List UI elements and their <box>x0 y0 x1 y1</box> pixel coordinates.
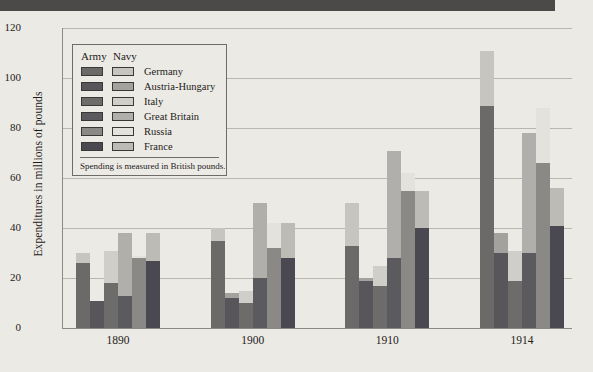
x-axis-line <box>62 328 572 329</box>
bar-segment-army <box>146 261 160 329</box>
legend-swatch-army <box>81 67 103 76</box>
legend-label: Great Britain <box>144 111 199 122</box>
bar-segment-army <box>225 298 239 328</box>
bar-segment-army <box>387 258 401 328</box>
legend-swatch-navy <box>112 112 134 121</box>
bar-france-1914 <box>550 188 564 328</box>
bar-germany-1890 <box>76 253 90 328</box>
y-tick-label: 40 <box>0 221 21 233</box>
y-tick-label: 20 <box>0 271 21 283</box>
bar-segment-navy <box>104 251 118 284</box>
bar-segment-army <box>267 248 281 328</box>
bar-austria-hungary-1890 <box>90 301 104 329</box>
bar-france-1910 <box>415 191 429 329</box>
bar-france-1890 <box>146 233 160 328</box>
header-band <box>0 0 555 11</box>
bar-segment-navy <box>211 228 225 241</box>
bar-segment-army <box>550 226 564 329</box>
bar-russia-1914 <box>536 108 550 328</box>
bar-segment-navy <box>536 108 550 163</box>
bar-germany-1910 <box>345 203 359 328</box>
bar-segment-navy <box>415 191 429 229</box>
legend-swatch-navy <box>112 142 134 151</box>
bar-italy-1910 <box>373 266 387 329</box>
bar-segment-navy <box>387 151 401 259</box>
bar-segment-navy <box>550 188 564 226</box>
x-tick-label-1914: 1914 <box>482 334 562 346</box>
legend-swatch-navy <box>112 97 134 106</box>
bar-segment-army <box>281 258 295 328</box>
bar-segment-navy <box>239 291 253 304</box>
bar-segment-navy <box>253 203 267 278</box>
legend-swatch-army <box>81 127 103 136</box>
y-tick-label: 120 <box>0 21 21 33</box>
bar-segment-navy <box>281 223 295 258</box>
legend-header: Army Navy <box>80 50 219 62</box>
bar-germany-1914 <box>480 51 494 329</box>
bar-italy-1900 <box>239 291 253 329</box>
bar-segment-army <box>494 253 508 328</box>
bar-italy-1890 <box>104 251 118 329</box>
bar-segment-army <box>359 281 373 329</box>
legend-item-russia[interactable]: Russia <box>80 124 219 138</box>
legend-rows: GermanyAustria-HungaryItalyGreat Britain… <box>80 64 219 153</box>
legend: Army Navy GermanyAustria-HungaryItalyGre… <box>72 44 227 176</box>
bar-segment-navy <box>401 173 415 191</box>
bar-segment-army <box>508 281 522 329</box>
legend-swatch-army <box>81 97 103 106</box>
bar-austria-hungary-1900 <box>225 293 239 328</box>
bar-segment-navy <box>146 233 160 261</box>
bar-segment-navy <box>494 233 508 253</box>
bar-segment-army <box>132 258 146 328</box>
legend-note: Spending is measured in British pounds. <box>80 157 219 171</box>
bar-segment-army <box>522 253 536 328</box>
legend-swatch-army <box>81 112 103 121</box>
bar-segment-navy <box>480 51 494 106</box>
bar-segment-army <box>239 303 253 328</box>
legend-item-germany[interactable]: Germany <box>80 64 219 78</box>
bar-segment-navy <box>508 251 522 281</box>
x-tick-label-1890: 1890 <box>78 334 158 346</box>
legend-header-army: Army <box>81 50 113 62</box>
bar-segment-army <box>480 106 494 329</box>
bar-segment-army <box>536 163 550 328</box>
bar-segment-army <box>211 241 225 329</box>
bar-segment-navy <box>118 233 132 296</box>
y-tick-label: 0 <box>0 321 21 333</box>
bar-great-britain-1890 <box>118 233 132 328</box>
x-tick-label-1900: 1900 <box>213 334 293 346</box>
legend-item-france[interactable]: France <box>80 139 219 153</box>
bar-segment-army <box>118 296 132 329</box>
y-tick-label: 100 <box>0 71 21 83</box>
legend-item-austria-hungary[interactable]: Austria-Hungary <box>80 79 219 93</box>
y-axis-title: Expenditures in millions of pounds <box>32 59 44 289</box>
bar-segment-army <box>76 263 90 328</box>
bar-segment-navy <box>76 253 90 263</box>
bar-italy-1914 <box>508 251 522 329</box>
y-tick-label: 80 <box>0 121 21 133</box>
legend-label: France <box>144 141 173 152</box>
bar-russia-1910 <box>401 173 415 328</box>
bar-segment-army <box>373 286 387 329</box>
bar-great-britain-1910 <box>387 151 401 329</box>
bar-russia-1890 <box>132 256 146 329</box>
legend-header-navy: Navy <box>113 50 153 62</box>
legend-item-great-britain[interactable]: Great Britain <box>80 109 219 123</box>
legend-swatch-army <box>81 82 103 91</box>
bar-segment-army <box>90 301 104 329</box>
bar-austria-hungary-1910 <box>359 278 373 328</box>
legend-label: Russia <box>144 126 172 137</box>
legend-item-italy[interactable]: Italy <box>80 94 219 108</box>
bar-segment-army <box>104 283 118 328</box>
legend-label: Austria-Hungary <box>144 81 215 92</box>
bar-great-britain-1914 <box>522 133 536 328</box>
legend-label: Italy <box>144 96 163 107</box>
bar-segment-navy <box>522 133 536 253</box>
bar-segment-navy <box>345 203 359 246</box>
bar-segment-army <box>345 246 359 329</box>
legend-swatch-navy <box>112 82 134 91</box>
bar-segment-army <box>401 191 415 329</box>
legend-label: Germany <box>144 66 183 77</box>
chart-page: Expenditures in millions of pounds 02040… <box>0 0 593 372</box>
bar-austria-hungary-1914 <box>494 233 508 328</box>
